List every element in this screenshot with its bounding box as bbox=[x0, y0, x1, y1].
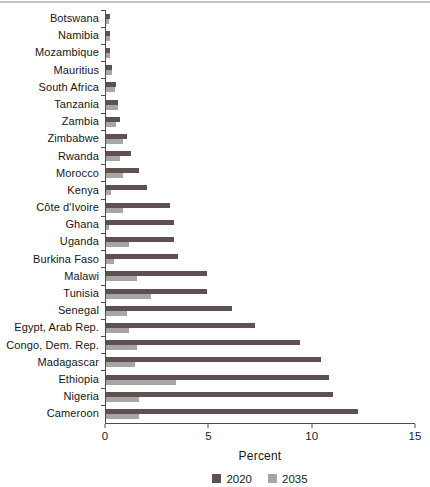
chart-legend: 2020 2035 bbox=[105, 473, 415, 485]
chart-row: Côte d'Ivoire bbox=[0, 199, 430, 216]
category-label: Morocco bbox=[0, 165, 105, 182]
bar-group bbox=[105, 27, 416, 44]
bar-2035-ethiopia bbox=[106, 380, 176, 385]
bar-2020-madagascar bbox=[106, 357, 321, 362]
category-label: Cameroon bbox=[0, 405, 105, 422]
bar-2035-malawi bbox=[106, 276, 137, 281]
category-label: South Africa bbox=[0, 79, 105, 96]
bar-2035-egypt-arab-rep bbox=[106, 328, 129, 333]
bar-group bbox=[105, 199, 416, 216]
bar-chart: BotswanaNamibiaMozambiqueMauritiusSouth … bbox=[0, 10, 430, 485]
chart-row: Uganda bbox=[0, 233, 430, 250]
chart-rows: BotswanaNamibiaMozambiqueMauritiusSouth … bbox=[0, 10, 430, 423]
bar-group bbox=[105, 165, 416, 182]
category-label: Zimbabwe bbox=[0, 130, 105, 147]
category-label: Zambia bbox=[0, 113, 105, 130]
category-label: Burkina Faso bbox=[0, 251, 105, 268]
bar-group bbox=[105, 44, 416, 61]
bar-group bbox=[105, 371, 416, 388]
chart-row: Tunisia bbox=[0, 285, 430, 302]
category-label: Congo, Dem. Rep. bbox=[0, 337, 105, 354]
bar-2035-madagascar bbox=[106, 362, 135, 367]
chart-row: Egypt, Arab Rep. bbox=[0, 319, 430, 336]
bar-2035-mozambique bbox=[106, 53, 110, 58]
page-top-rule bbox=[0, 1, 430, 3]
bar-group bbox=[105, 62, 416, 79]
bar-group bbox=[105, 302, 416, 319]
bar-2035-morocco bbox=[106, 173, 123, 178]
chart-row: Zimbabwe bbox=[0, 130, 430, 147]
bar-group bbox=[105, 216, 416, 233]
bar-2035-nigeria bbox=[106, 397, 139, 402]
chart-row: Zambia bbox=[0, 113, 430, 130]
category-label: Ghana bbox=[0, 216, 105, 233]
chart-row: Mauritius bbox=[0, 62, 430, 79]
bar-group bbox=[105, 319, 416, 336]
bar-2035-cameroon bbox=[106, 414, 139, 419]
chart-row: Ghana bbox=[0, 216, 430, 233]
bar-group bbox=[105, 182, 416, 199]
x-tick bbox=[208, 424, 209, 428]
chart-row: Cameroon bbox=[0, 405, 430, 422]
bar-2035-rwanda bbox=[106, 156, 120, 161]
category-label: Côte d'Ivoire bbox=[0, 199, 105, 216]
category-label: Tunisia bbox=[0, 285, 105, 302]
x-tick-label: 5 bbox=[205, 430, 211, 442]
bar-2035-zimbabwe bbox=[106, 139, 123, 144]
category-label: Mauritius bbox=[0, 62, 105, 79]
bar-2020-ghana bbox=[106, 220, 174, 225]
chart-row: Rwanda bbox=[0, 148, 430, 165]
bar-group bbox=[105, 96, 416, 113]
bar-2035-botswana bbox=[106, 19, 109, 24]
bar-2020-cameroon bbox=[106, 409, 358, 414]
category-label: Tanzania bbox=[0, 96, 105, 113]
bar-2035-zambia bbox=[106, 122, 116, 127]
bar-group bbox=[105, 388, 416, 405]
bar-2035-ghana bbox=[106, 225, 109, 230]
bar-2035-congo-dem-rep bbox=[106, 345, 137, 350]
bar-group bbox=[105, 268, 416, 285]
bar-group bbox=[105, 285, 416, 302]
legend-item-2020: 2020 bbox=[212, 473, 252, 485]
x-tick bbox=[311, 424, 312, 428]
chart-row: Mozambique bbox=[0, 44, 430, 61]
legend-swatch-2035 bbox=[268, 474, 277, 483]
bar-2020-burkina-faso bbox=[106, 254, 178, 259]
bar-2020-nigeria bbox=[106, 392, 333, 397]
category-label: Malawi bbox=[0, 268, 105, 285]
x-tick-label: 0 bbox=[102, 430, 108, 442]
chart-row: Ethiopia bbox=[0, 371, 430, 388]
bar-group bbox=[105, 113, 416, 130]
category-label: Botswana bbox=[0, 10, 105, 27]
legend-item-2035: 2035 bbox=[268, 473, 308, 485]
legend-label-2035: 2035 bbox=[282, 473, 308, 485]
chart-row: Kenya bbox=[0, 182, 430, 199]
legend-label-2020: 2020 bbox=[226, 473, 252, 485]
chart-row: Namibia bbox=[0, 27, 430, 44]
bar-group bbox=[105, 130, 416, 147]
category-label: Egypt, Arab Rep. bbox=[0, 319, 105, 336]
bar-2035-mauritius bbox=[106, 70, 112, 75]
bar-2035-tunisia bbox=[106, 294, 151, 299]
x-tick bbox=[415, 424, 416, 428]
bar-2035-senegal bbox=[106, 311, 127, 316]
bar-2035-kenya bbox=[106, 190, 111, 195]
chart-row: Tanzania bbox=[0, 96, 430, 113]
bar-group bbox=[105, 233, 416, 250]
bar-group bbox=[105, 354, 416, 371]
category-label: Ethiopia bbox=[0, 371, 105, 388]
chart-row: Nigeria bbox=[0, 388, 430, 405]
x-axis-title: Percent bbox=[105, 449, 415, 463]
bar-group bbox=[105, 148, 416, 165]
category-label: Nigeria bbox=[0, 388, 105, 405]
bar-2035-namibia bbox=[106, 36, 110, 41]
bar-group bbox=[105, 405, 416, 422]
chart-row: South Africa bbox=[0, 79, 430, 96]
bar-2035-uganda bbox=[106, 242, 129, 247]
bar-group bbox=[105, 79, 416, 96]
bar-2020-kenya bbox=[106, 185, 147, 190]
bar-2035-south-africa bbox=[106, 87, 115, 92]
bar-group bbox=[105, 251, 416, 268]
chart-row: Malawi bbox=[0, 268, 430, 285]
category-label: Kenya bbox=[0, 182, 105, 199]
